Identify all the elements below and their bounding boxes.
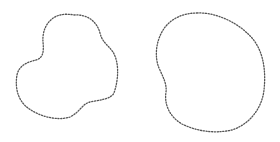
diagram-canvas [0,0,280,142]
left-dotted-blob [16,14,117,118]
right-dotted-blob [156,13,264,132]
